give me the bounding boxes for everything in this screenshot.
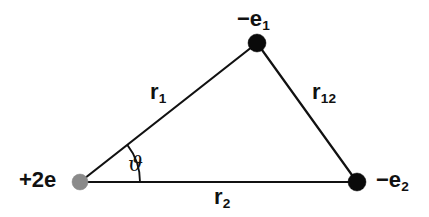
edge-r1-base: r bbox=[150, 79, 159, 104]
angle-theta-label: ϑ bbox=[128, 154, 143, 175]
electron1-charge-subscript: 1 bbox=[262, 18, 270, 33]
electron2-charge-subscript: 2 bbox=[401, 179, 409, 194]
edge-r12-label: r12 bbox=[312, 81, 336, 103]
electron2-charge-base: −e bbox=[376, 167, 401, 192]
nucleus-charge-label: +2e bbox=[19, 169, 56, 191]
edge-r12-subscript: 12 bbox=[321, 91, 336, 106]
electron2-dot-icon bbox=[348, 173, 366, 191]
electron1-charge-label: −e1 bbox=[237, 8, 270, 30]
edge-r12 bbox=[257, 43, 357, 182]
edge-r1-subscript: 1 bbox=[159, 91, 167, 106]
helium-coordinate-diagram: +2e −e1 −e2 r1 r12 r2 ϑ bbox=[0, 0, 429, 217]
edge-r1-label: r1 bbox=[150, 81, 166, 103]
electron1-dot-icon bbox=[248, 34, 266, 52]
electron2-charge-label: −e2 bbox=[376, 169, 409, 191]
edge-r1 bbox=[80, 43, 257, 182]
edge-r2-label: r2 bbox=[214, 186, 230, 208]
electron1-charge-base: −e bbox=[237, 6, 262, 31]
nucleus-dot-icon bbox=[72, 174, 88, 190]
edge-r2-base: r bbox=[214, 184, 223, 209]
edge-r2-subscript: 2 bbox=[223, 196, 231, 211]
edge-r12-base: r bbox=[312, 79, 321, 104]
